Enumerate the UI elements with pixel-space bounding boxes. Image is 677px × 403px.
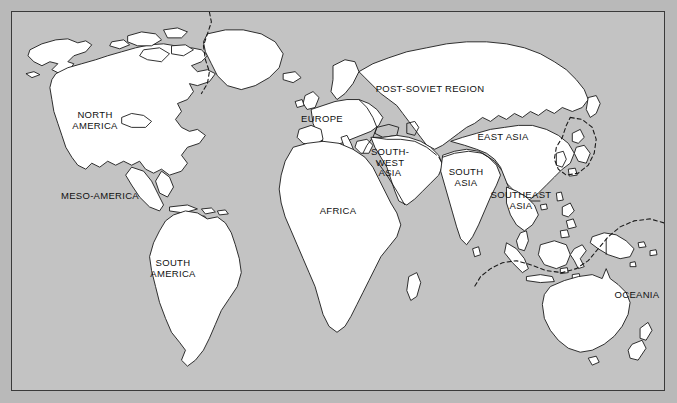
landmass-north-america	[26, 28, 301, 221]
landmass-south-america	[150, 211, 242, 366]
landmass-south-asia	[441, 149, 507, 256]
map-frame	[11, 11, 665, 391]
landmass-southeast-asia	[504, 187, 586, 282]
world-map-figure: NORTH AMERICA MESO-AMERICA SOUTH AMERICA…	[0, 0, 677, 403]
world-map-svg	[12, 12, 664, 390]
